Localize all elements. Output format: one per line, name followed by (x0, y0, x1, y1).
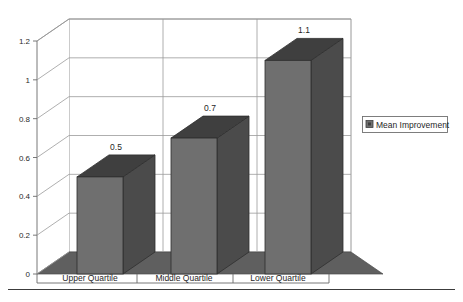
y-axis-ticks: 00.20.40.60.811.2 (19, 37, 37, 279)
y-axis-tick-label: 0.8 (19, 115, 31, 124)
bar-value-label: 1.1 (298, 25, 310, 35)
legend[interactable]: Mean Improvement (363, 117, 450, 133)
bar-column[interactable] (77, 155, 155, 274)
bar-column[interactable] (171, 116, 249, 274)
y-axis-tick-label: 1.2 (19, 37, 31, 46)
x-axis-category-label: Upper Quartile (62, 273, 118, 283)
x-axis-category-label: Lower Quartile (250, 273, 306, 283)
y-axis-tick-label: 1 (26, 76, 31, 85)
bar-chart-3d: 00.20.40.60.811.2 0.50.71.1 Upper Quarti… (0, 0, 463, 302)
legend-swatch-inner-icon (368, 123, 371, 126)
y-axis-tick-label: 0.4 (19, 192, 31, 201)
y-axis-tick-label: 0.6 (19, 154, 31, 163)
x-axis-category-label: Middle Quartile (155, 273, 212, 283)
x-axis-category-labels: Upper QuartileMiddle QuartileLower Quart… (62, 273, 306, 283)
bar-column[interactable] (265, 38, 343, 274)
y-axis-tick-label: 0.2 (19, 231, 31, 240)
legend-label: Mean Improvement (376, 120, 450, 130)
chart-container: 00.20.40.60.811.2 0.50.71.1 Upper Quarti… (0, 0, 463, 302)
y-axis-tick-label: 0 (26, 270, 31, 279)
bar-value-label: 0.7 (204, 103, 216, 113)
footer-horizontal-rule (8, 289, 455, 290)
bar-value-label: 0.5 (110, 142, 122, 152)
